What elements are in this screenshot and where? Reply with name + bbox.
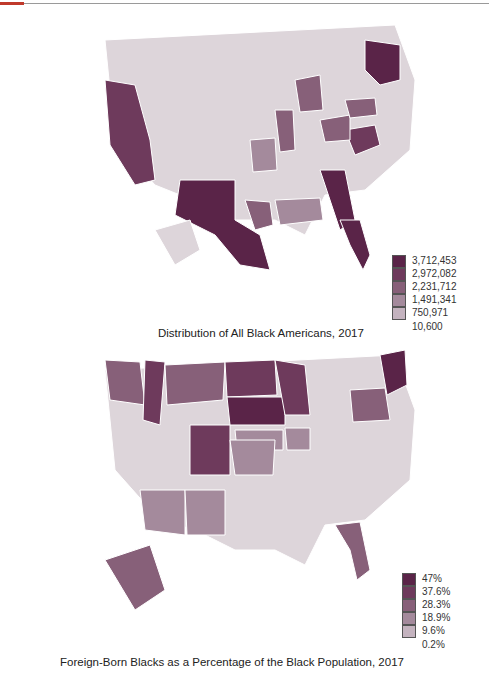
legend-label: 3,712,453 bbox=[412, 255, 457, 266]
legend-label: 37.6% bbox=[422, 586, 450, 597]
legend-swatch bbox=[392, 294, 406, 307]
legend-foreign-born: 47% 37.6% 28.3% 18.9% 9.6% 0.2% bbox=[402, 573, 482, 663]
legend-label: 18.9% bbox=[422, 612, 450, 623]
legend-label: 2,972,082 bbox=[412, 268, 457, 279]
page-rule bbox=[0, 3, 489, 4]
map-foreign-born bbox=[95, 350, 425, 640]
legend-black-population: 3,712,453 2,972,082 2,231,712 1,491,341 … bbox=[392, 255, 482, 345]
legend-label: 9.6% bbox=[422, 625, 445, 636]
map-title-black-population: Distribution of All Black Americans, 201… bbox=[158, 327, 364, 339]
page-accent bbox=[0, 2, 24, 5]
legend-label: 2,231,712 bbox=[412, 281, 457, 292]
legend-swatch bbox=[392, 307, 406, 320]
legend-label: 0.2% bbox=[422, 639, 445, 650]
legend-label: 10,600 bbox=[412, 321, 443, 332]
legend-swatch bbox=[392, 255, 406, 268]
legend-label: 47% bbox=[422, 573, 442, 584]
legend-swatch bbox=[392, 268, 406, 281]
map-title-foreign-born: Foreign-Born Blacks as a Percentage of t… bbox=[60, 656, 404, 668]
legend-label: 28.3% bbox=[422, 599, 450, 610]
legend-swatch bbox=[402, 586, 416, 599]
legend-swatch bbox=[402, 612, 416, 625]
legend-swatch bbox=[402, 625, 416, 638]
legend-swatch bbox=[392, 281, 406, 294]
map-black-population bbox=[95, 20, 425, 300]
legend-swatch bbox=[402, 573, 416, 586]
legend-swatch bbox=[402, 599, 416, 612]
legend-label: 750,971 bbox=[412, 307, 448, 318]
legend-label: 1,491,341 bbox=[412, 294, 457, 305]
